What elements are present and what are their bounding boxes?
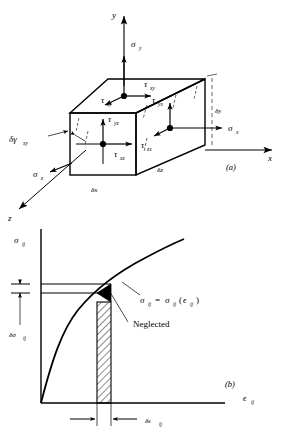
curve-eq-rhs-sub: ij <box>173 301 177 307</box>
neglected-annotation: Neglected <box>133 319 170 329</box>
tau-yz-sub: yz <box>113 120 119 126</box>
figure-svg: y x z σ y τ <box>0 0 288 438</box>
panel-b: σ ij ϵ ij δσ ij δϵ ij <box>9 229 255 427</box>
curve-eq-lhs: σ <box>140 295 145 305</box>
tau-xy-sub: xy <box>149 85 155 91</box>
tau-xy-label: τ <box>144 79 148 89</box>
panel-b-label: (b) <box>225 379 235 389</box>
sigma-y-arrow <box>121 56 127 99</box>
hatched-strain-increment-area <box>97 302 111 403</box>
axis-y-label: y <box>111 10 116 20</box>
curve-eq-lhs-sub: ij <box>148 301 152 307</box>
delta-gamma-xy-label: δγ <box>9 134 17 144</box>
curve-eq-close-paren: ) <box>196 295 199 305</box>
tau-zx-sub: zx <box>146 146 152 152</box>
delta-sigma-label: δσ <box>9 331 16 339</box>
delta-epsilon-dimension <box>70 403 137 426</box>
tau-xz-label: τ <box>114 149 118 159</box>
delta-y-label: δy <box>215 107 222 115</box>
tau-xz-sub: xz <box>119 155 125 161</box>
delta-sigma-dimension <box>11 279 30 325</box>
delta-epsilon-label: δϵ <box>145 417 152 425</box>
axis-z <box>19 150 86 209</box>
panel-b-x-axis-sub: ij <box>251 399 255 405</box>
delta-gamma-xy-sub: xy <box>22 140 28 146</box>
curve-eq-arg-sub: ij <box>190 301 194 307</box>
sigma-z-sub: z <box>40 175 44 181</box>
curve-equation-leader <box>122 282 140 295</box>
curve-eq-rhs: σ <box>165 295 170 305</box>
tau-zy-sub: zy <box>106 101 112 107</box>
curve-eq-arg: ϵ <box>183 295 187 305</box>
figure-container: y x z σ y τ <box>0 0 288 438</box>
panel-a: y x z σ y τ <box>7 10 272 223</box>
sigma-y-sub: y <box>138 45 142 51</box>
curve-eq-open-paren: ( <box>179 295 182 305</box>
tau-yx-sub: yx <box>157 101 163 107</box>
sigma-z-label: σ <box>33 169 38 179</box>
axis-x-label: x <box>267 153 272 163</box>
tau-zy-label: τ <box>101 95 105 105</box>
panel-b-x-axis-label: ϵ <box>243 393 247 403</box>
delta-epsilon-sub: ij <box>159 421 163 427</box>
curve-eq-equals: = <box>155 295 160 305</box>
curve-equation-label: σ ij = σ ij ( ϵ ij ) <box>140 295 199 307</box>
neglected-leader <box>110 292 128 322</box>
sigma-x-sub: x <box>235 129 239 135</box>
sigma-y-label: σ <box>131 39 136 49</box>
delta-x-label: δx <box>91 186 98 194</box>
panel-b-y-axis-sub: ij <box>22 241 26 247</box>
panel-b-y-axis-label: σ <box>14 235 19 245</box>
axis-z-label: z <box>7 213 12 223</box>
delta-sigma-sub: ij <box>23 335 27 341</box>
panel-a-label: (a) <box>226 162 236 172</box>
sigma-x-label: σ <box>228 123 233 133</box>
tau-zx-label: τ <box>141 140 145 150</box>
sigma-z-arrow <box>50 163 72 172</box>
delta-z-label: δz <box>157 166 163 174</box>
delta-gamma-xy-leader <box>48 118 88 145</box>
tau-yz-label: τ <box>108 114 112 124</box>
